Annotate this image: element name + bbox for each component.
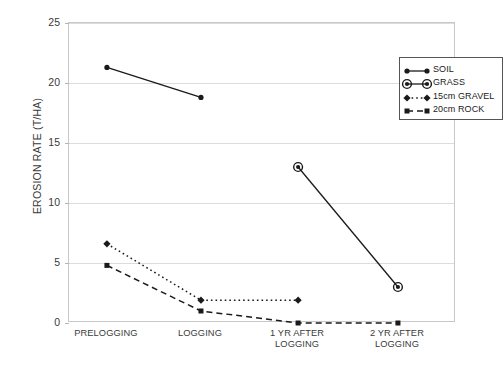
data-point <box>295 297 302 304</box>
series-line <box>107 244 298 300</box>
series-line <box>107 67 201 97</box>
y-tick-label: 0 <box>0 316 60 328</box>
legend-item: 15cm GRAVEL <box>404 89 498 103</box>
data-point <box>198 309 203 314</box>
legend-marker <box>403 94 410 101</box>
series-15cm-gravel <box>103 240 301 304</box>
legend-marker <box>404 68 409 73</box>
data-point <box>198 95 203 100</box>
legend-item: SOIL <box>404 62 498 76</box>
data-point <box>103 240 110 247</box>
y-tick-label: 25 <box>0 16 60 28</box>
y-tick-label: 20 <box>0 76 60 88</box>
data-point <box>296 321 301 326</box>
series-grass <box>294 163 403 292</box>
x-tick-label: LOGGING <box>178 328 222 339</box>
x-tick-label: 2 YR AFTER LOGGING <box>370 328 424 350</box>
data-point <box>104 263 109 268</box>
data-point <box>197 297 204 304</box>
legend-marker-icon <box>404 76 430 88</box>
legend-marker-icon <box>404 103 430 115</box>
legend-label: 20cm ROCK <box>433 104 484 114</box>
x-tick-label: PRELOGGING <box>74 328 138 339</box>
legend-marker <box>423 94 430 101</box>
data-point <box>395 321 400 326</box>
legend-label: GRASS <box>433 77 465 87</box>
series-soil <box>104 65 203 100</box>
series-line <box>298 167 398 287</box>
y-tick-label: 5 <box>0 256 60 268</box>
series-line <box>107 265 398 323</box>
series-20cm-rock <box>104 263 400 326</box>
legend-marker-icon <box>404 63 430 75</box>
data-point <box>394 283 403 292</box>
x-tick-label: 1 YR AFTER LOGGING <box>270 328 324 350</box>
data-point <box>104 65 109 70</box>
plot-area: SOILGRASS15cm GRAVEL20cm ROCK <box>68 22 455 322</box>
legend-label: SOIL <box>433 64 454 74</box>
legend-item: GRASS <box>404 76 498 90</box>
y-tick-label: 10 <box>0 196 60 208</box>
data-point <box>294 163 303 172</box>
data-series-layer <box>69 23 456 323</box>
legend-item: 20cm ROCK <box>404 103 498 117</box>
legend-marker-icon <box>404 90 430 102</box>
y-tick-mark <box>65 323 69 324</box>
legend-marker <box>425 109 430 114</box>
legend-marker <box>424 68 429 73</box>
legend-label: 15cm GRAVEL <box>433 91 494 101</box>
legend-marker <box>405 109 410 114</box>
chart-legend: SOILGRASS15cm GRAVEL20cm ROCK <box>399 57 503 120</box>
y-tick-label: 15 <box>0 136 60 148</box>
